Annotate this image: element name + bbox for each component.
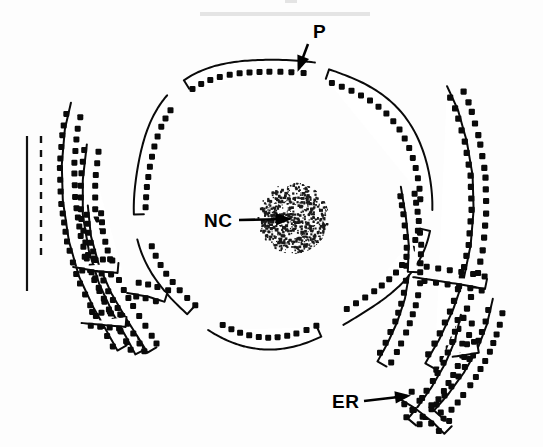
label-pore: P <box>297 21 326 72</box>
nuclear-envelope-segment <box>184 60 315 92</box>
nuclear-envelope-segment <box>137 240 198 315</box>
label-text-nucleolus: NC <box>204 210 232 231</box>
nuclear-envelope-segment <box>208 322 321 350</box>
nuclear-envelope-segment <box>343 228 430 325</box>
nuclear-envelope-segment <box>326 69 433 210</box>
scale-bars <box>27 136 41 291</box>
scan-artifacts <box>200 0 370 16</box>
label-text-pore: P <box>313 21 326 42</box>
label-text-er: ER <box>332 391 359 412</box>
label-nucleolus: NC <box>204 210 292 231</box>
figure-canvas: PNCER P NC ER <box>0 0 543 447</box>
endoplasmic-reticulum-network <box>57 86 506 434</box>
diagram-svg: PNCER <box>0 0 543 447</box>
nuclear-envelope <box>134 60 433 350</box>
nuclear-envelope-segment <box>134 95 174 214</box>
label-er: ER <box>332 391 411 412</box>
